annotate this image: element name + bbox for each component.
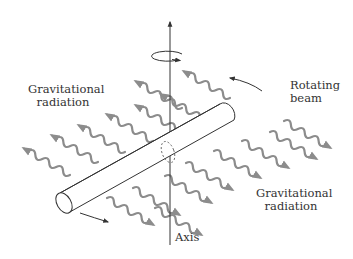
label-line: radiation bbox=[256, 200, 326, 213]
gravitational-radiation-label-left: Gravitational radiation bbox=[28, 83, 98, 109]
label-line: radiation bbox=[28, 96, 98, 109]
label-line: beam bbox=[290, 92, 338, 105]
rotation-ellipse-arrow-icon bbox=[152, 51, 182, 61]
rotating-beam-label: Rotating beam bbox=[290, 79, 338, 105]
curved-arrow-icon-bottom bbox=[80, 213, 108, 222]
wavy-arrow-icon-group-right bbox=[106, 118, 333, 237]
rotating-beam bbox=[52, 103, 234, 216]
gravitational-radiation-label-right: Gravitational radiation bbox=[256, 187, 326, 213]
curved-arrow-icon-top bbox=[230, 78, 262, 91]
gravitational-radiation-diagram bbox=[0, 0, 353, 259]
axis-label: Axis bbox=[175, 231, 205, 244]
